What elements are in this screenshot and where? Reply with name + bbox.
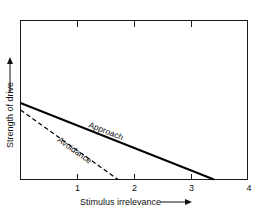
x-tick-label-2: 2 [132,183,137,193]
chart-canvas: 1 2 3 4 Approach Avoidance Stimulus irre… [0,0,261,210]
bottom-axis-ticks [78,174,192,180]
x-axis-title: Stimulus irrelevance [80,197,161,207]
x-axis-arrow-icon [160,199,192,205]
top-axis-ticks [78,21,192,27]
x-tick-label-3: 3 [189,183,194,193]
series-line-approach [21,103,215,180]
x-tick-label-4: 4 [246,183,251,193]
curve-label-approach: Approach [87,120,125,143]
curve-label-avoidance: Avoidance [56,134,94,165]
x-tick-label-1: 1 [75,183,80,193]
plot-frame [21,21,248,180]
x-tick-labels: 1 2 3 4 [75,183,252,193]
conflict-gradient-chart: 1 2 3 4 Approach Avoidance Stimulus irre… [0,0,261,210]
